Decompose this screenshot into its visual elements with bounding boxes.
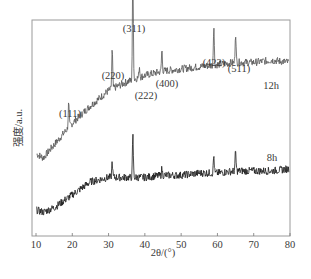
x-tick-label: 80 — [285, 239, 296, 250]
xrd-chart: 1020304050607080 (111)(220)(311)(222)(40… — [0, 0, 311, 279]
peak-label: (511) — [228, 63, 251, 75]
y-axis-title: 强度/a.u. — [12, 109, 24, 147]
series-label-12h: 12h — [263, 80, 280, 91]
peak-label: (222) — [135, 90, 158, 102]
peak-label: (400) — [156, 78, 179, 90]
x-tick-label: 30 — [103, 239, 114, 250]
peak-label: (111) — [59, 108, 81, 120]
x-tick-label: 20 — [67, 239, 78, 250]
x-tick-label: 40 — [140, 239, 151, 250]
x-axis-title: 2θ/(°) — [151, 247, 176, 259]
x-tick-label: 70 — [248, 239, 259, 250]
series-label-8h: 8h — [267, 152, 278, 163]
series-labels: 12h8h — [263, 80, 280, 163]
x-tick-label: 50 — [176, 239, 187, 250]
x-tick-label: 60 — [212, 239, 223, 250]
plot-frame — [32, 20, 290, 236]
peak-label: (422) — [203, 57, 226, 69]
peak-label: (311) — [123, 23, 146, 35]
series-8h — [37, 134, 289, 215]
x-tick-label: 10 — [31, 239, 42, 250]
peak-label: (220) — [102, 70, 125, 82]
